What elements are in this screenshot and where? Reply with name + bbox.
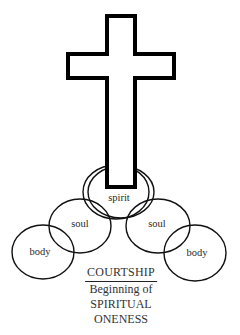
body-right-label: body (187, 247, 208, 258)
soul-right-label: soul (148, 218, 166, 229)
caption: COURTSHIP Beginning of SPIRITUAL ONENESS (85, 265, 157, 327)
caption-title: COURTSHIP (85, 265, 157, 282)
caption-line-2: SPIRITUAL (85, 297, 157, 312)
cross-icon (68, 16, 174, 187)
caption-line-1: Beginning of (85, 282, 157, 297)
body-left-label: body (30, 246, 51, 257)
spirit-label: spirit (108, 192, 130, 203)
caption-line-3: ONENESS (85, 312, 157, 327)
soul-left-label: soul (71, 218, 89, 229)
